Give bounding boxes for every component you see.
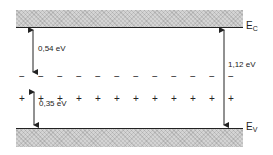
donor-marker: + xyxy=(76,94,82,104)
donor-marker: + xyxy=(57,94,63,104)
acceptor-marker: − xyxy=(114,72,120,82)
acceptor-marker: − xyxy=(19,72,25,82)
band-diagram: EC EV 0,54 eV 0,35 eV 1,12 eV −−−−−−−−−−… xyxy=(0,0,273,155)
acceptor-marker: − xyxy=(152,72,158,82)
donor-marker: + xyxy=(38,94,44,104)
acceptor-marker: − xyxy=(209,72,215,82)
donor-marker: + xyxy=(190,94,196,104)
acceptor-marker: − xyxy=(228,72,234,82)
donor-marker: + xyxy=(19,94,25,104)
acceptor-marker: − xyxy=(190,72,196,82)
acceptor-marker: − xyxy=(133,72,139,82)
donor-marker: + xyxy=(133,94,139,104)
donor-marker: + xyxy=(228,94,234,104)
donor-marker: + xyxy=(171,94,177,104)
gap-label-112: 1,12 eV xyxy=(228,60,256,69)
acceptor-marker: − xyxy=(57,72,63,82)
acceptor-marker: − xyxy=(95,72,101,82)
donor-marker: + xyxy=(95,94,101,104)
acceptor-marker: − xyxy=(38,72,44,82)
donor-marker: + xyxy=(209,94,215,104)
acceptor-marker: − xyxy=(171,72,177,82)
donor-marker: + xyxy=(114,94,120,104)
gap-label-054: 0,54 eV xyxy=(38,44,66,53)
acceptor-marker: − xyxy=(76,72,82,82)
donor-marker: + xyxy=(152,94,158,104)
